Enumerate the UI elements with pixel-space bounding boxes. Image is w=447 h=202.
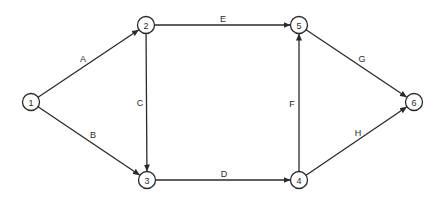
edge-label-e: E	[220, 14, 226, 24]
edges-layer	[38, 25, 406, 180]
node-3: 3	[139, 172, 156, 189]
edge-c-arrow	[146, 33, 147, 171]
edge-label-c: C	[137, 98, 144, 108]
node-label: 6	[411, 98, 416, 108]
edge-b-arrow	[38, 107, 139, 175]
edge-label-h: H	[355, 128, 362, 138]
edge-label-b: B	[90, 130, 96, 140]
edge-g-arrow	[306, 30, 406, 97]
edge-label-g: G	[358, 54, 365, 64]
node-label: 2	[143, 21, 148, 31]
network-diagram: 123456 ABCDEFGH	[0, 0, 447, 202]
nodes-layer: 123456	[23, 17, 423, 189]
node-label: 1	[28, 98, 33, 108]
node-1: 1	[23, 94, 40, 111]
node-4: 4	[291, 172, 308, 189]
node-label: 3	[144, 176, 149, 186]
diagram-svg: 123456 ABCDEFGH	[0, 0, 447, 202]
edge-h-arrow	[306, 107, 407, 175]
edge-label-d: D	[221, 169, 228, 179]
node-label: 4	[296, 176, 301, 186]
node-label: 5	[296, 21, 301, 31]
node-2: 2	[138, 17, 155, 34]
node-6: 6	[406, 94, 423, 111]
edge-label-a: A	[80, 54, 86, 64]
edge-labels-layer: ABCDEFGH	[80, 14, 366, 179]
edge-label-f: F	[289, 99, 295, 109]
node-5: 5	[291, 17, 308, 34]
edge-a-arrow	[38, 30, 138, 97]
